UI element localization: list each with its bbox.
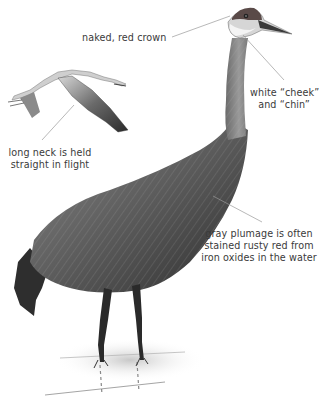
leader-neck [42, 105, 74, 140]
label-plumage-line-3: iron oxides in the water [198, 252, 320, 264]
label-neck-line-1: long neck is held [2, 147, 98, 159]
red-crown [232, 8, 262, 20]
label-neck: long neck is held straight in flight [2, 147, 98, 171]
label-crown: naked, red crown [82, 32, 166, 44]
label-plumage-line-1: gray plumage is often [198, 228, 320, 240]
label-cheek-line-1: white “cheek” [250, 87, 318, 99]
standing-crane [14, 8, 292, 368]
label-cheek: white “cheek” and “chin” [250, 87, 318, 111]
water-reflection [45, 338, 205, 395]
label-crown-text: naked, red crown [82, 32, 166, 43]
label-neck-line-2: straight in flight [2, 159, 98, 171]
leader-crown [172, 16, 230, 37]
crane-diagram: naked, red crown white “cheek” and “chin… [0, 0, 320, 402]
leader-cheek [243, 35, 284, 80]
label-plumage-line-2: stained rusty red from [198, 240, 320, 252]
label-plumage: gray plumage is often stained rusty red … [198, 228, 320, 264]
label-cheek-line-2: and “chin” [250, 99, 318, 111]
crane-illustration [0, 0, 320, 402]
flying-crane [8, 70, 128, 132]
